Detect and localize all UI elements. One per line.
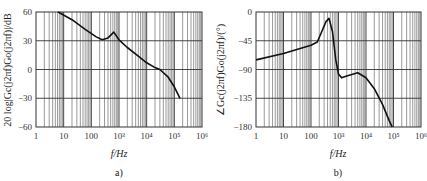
y-tick: −135 bbox=[233, 93, 252, 103]
y-tick: 0 bbox=[28, 65, 33, 75]
y-tick: −90 bbox=[238, 65, 253, 75]
x-tick: 10⁵ bbox=[387, 131, 399, 141]
x-tick: 10³ bbox=[333, 131, 345, 141]
y-tick: 30 bbox=[23, 36, 33, 46]
y-tick: 0 bbox=[248, 7, 253, 17]
x-tick: 100 bbox=[85, 131, 99, 141]
y-tick: −60 bbox=[18, 122, 33, 132]
y-tick: −45 bbox=[238, 36, 253, 46]
y-tick: 60 bbox=[23, 7, 33, 17]
x-axis-label: f/Hz bbox=[111, 148, 128, 159]
x-tick: 10⁴ bbox=[360, 131, 372, 141]
x-tick: 1 bbox=[34, 131, 39, 141]
x-tick: 10⁵ bbox=[168, 131, 180, 141]
x-tick: 100 bbox=[304, 131, 318, 141]
x-tick: 10 bbox=[59, 131, 69, 141]
x-tick-labels: 11010010³10⁴10⁵10⁶ bbox=[34, 131, 208, 141]
x-axis-label: f/Hz bbox=[330, 148, 347, 159]
x-tick: 10⁴ bbox=[141, 131, 153, 141]
bode-figure: 60 30 0 −30 −60 11010010³10⁴10⁵10⁶ 20 lo… bbox=[0, 0, 427, 181]
x-tick: 10⁶ bbox=[415, 131, 427, 141]
x-tick: 10 bbox=[279, 131, 289, 141]
panel-caption: b) bbox=[334, 167, 342, 179]
x-tick: 10⁶ bbox=[196, 131, 208, 141]
y-axis-label: 20 log|Gc(j2πf)Go(j2πf)|/dB bbox=[2, 13, 14, 127]
grid bbox=[36, 12, 202, 127]
y-tick: −180 bbox=[233, 122, 252, 132]
panel-caption: a) bbox=[115, 167, 123, 179]
grid bbox=[256, 12, 421, 127]
y-tick-labels: 60 30 0 −30 −60 bbox=[18, 7, 33, 132]
y-tick-labels: 0 −45 −90 −135 −180 bbox=[233, 7, 252, 132]
y-tick: −30 bbox=[18, 93, 33, 103]
phase-plot: 0 −45 −90 −135 −180 11010010³10⁴10⁵10⁶ ∠… bbox=[215, 7, 427, 179]
y-axis-label: ∠Gc(j2πf)Go(j2πf)/(°) bbox=[215, 24, 227, 116]
x-tick-labels: 11010010³10⁴10⁵10⁶ bbox=[254, 131, 427, 141]
x-tick: 1 bbox=[254, 131, 259, 141]
magnitude-plot: 60 30 0 −30 −60 11010010³10⁴10⁵10⁶ 20 lo… bbox=[2, 7, 208, 179]
x-tick: 10³ bbox=[113, 131, 125, 141]
